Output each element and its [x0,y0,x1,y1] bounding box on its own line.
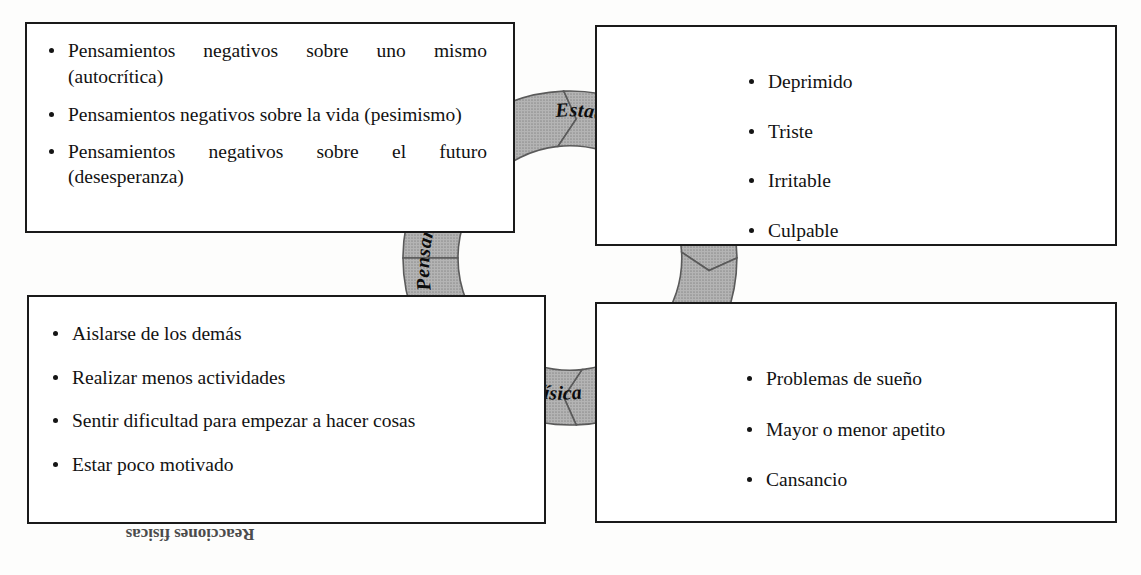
list-item-text: Deprimido [768,71,852,92]
list-item-text: Irritable [768,170,831,191]
bullet-dot-icon [749,79,754,84]
list-item-text: Sentir dificultad para empezar a hacer c… [72,410,415,431]
conductas-list: Aislarse de los demás Realizar menos act… [51,321,521,495]
bullet-dot-icon [53,462,58,467]
bullet-dot-icon [53,331,58,336]
box-pensamientos: Pensamientos negativos sobre uno mismo (… [25,22,515,233]
list-item-text: Pensamientos negativos sobre la vida (pe… [68,104,462,125]
reacciones-fisicas-list: Problemas de sueño Mayor o menor apetito… [745,366,1095,518]
list-item-text: Aislarse de los demás [72,323,242,344]
box-conductas: Aislarse de los demás Realizar menos act… [27,295,546,524]
list-item: Irritable [747,168,1077,194]
list-item-text: Cansancio [766,469,847,490]
list-item: Estar poco motivado [51,452,521,478]
list-item: Triste [747,119,1077,145]
list-item-text: Estar poco motivado [72,454,233,475]
list-item: Realizar menos actividades [51,365,521,391]
list-item: Deprimido [747,69,1077,95]
bullet-dot-icon [749,129,754,134]
box-reacciones-fisicas: Problemas de sueño Mayor o menor apetito… [595,302,1117,523]
bullet-dot-icon [747,477,752,482]
list-item: Pensamientos negativos sobre la vida (pe… [47,102,487,128]
bullet-dot-icon [747,427,752,432]
list-item-text: Triste [768,121,813,142]
pensamientos-list: Pensamientos negativos sobre uno mismo (… [47,38,487,190]
bullet-dot-icon [749,228,754,233]
list-item: Mayor o menor apetito [745,417,1095,443]
list-item-text: Pensamientos negativos sobre el futuro (… [68,141,487,188]
bullet-dot-icon [49,112,54,117]
list-item-text: Culpable [768,220,838,241]
list-item: Problemas de sueño [745,366,1095,392]
list-item: Sentir dificultad para empezar a hacer c… [51,408,521,434]
list-item-text: Problemas de sueño [766,368,922,389]
list-item: Pensamientos negativos sobre el futuro (… [47,139,487,190]
list-item-text: Mayor o menor apetito [766,419,945,440]
box-estados-de-animo: Deprimido Triste Irritable Culpable [595,25,1117,246]
bullet-dot-icon [53,375,58,380]
list-item-text: Pensamientos negativos sobre uno mismo (… [68,40,487,87]
bullet-dot-icon [49,149,54,154]
list-item: Aislarse de los demás [51,321,521,347]
estados-de-animo-list: Deprimido Triste Irritable Culpable [747,69,1077,267]
bullet-dot-icon [747,376,752,381]
bullet-dot-icon [749,178,754,183]
scan-bleed-through-text: Reacciones físicas [60,524,320,544]
bullet-dot-icon [53,418,58,423]
list-item-text: Realizar menos actividades [72,367,285,388]
list-item: Culpable [747,218,1077,244]
list-item: Pensamientos negativos sobre uno mismo (… [47,38,487,89]
bullet-dot-icon [49,48,54,53]
diagram-canvas: Pensamientos negativos sobre uno mismo (… [0,0,1141,575]
list-item: Cansancio [745,467,1095,493]
